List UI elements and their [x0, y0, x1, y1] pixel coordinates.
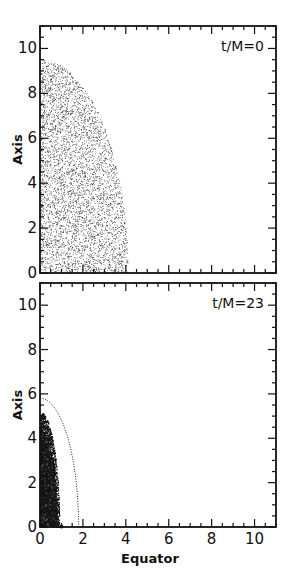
x-tick-label: 8 [207, 530, 217, 548]
plot-frame [40, 283, 276, 527]
plot-frame [40, 26, 276, 273]
particle-scatter [40, 60, 128, 274]
x-tick-label: 6 [164, 530, 174, 548]
x-tick-label: 10 [245, 530, 264, 548]
panel-time-label: t/M=23 [212, 295, 264, 311]
y-tick-label: 10 [18, 39, 37, 57]
y-tick-label: 2 [27, 474, 37, 492]
particle-scatter [40, 413, 60, 528]
y-axis-title: Axis [10, 134, 25, 165]
y-tick-label: 2 [27, 219, 37, 237]
y-tick-label: 10 [18, 296, 37, 314]
panel-bottom: 02468100246810EquatorAxist/M=23 [10, 283, 276, 566]
chart-canvas: 0246810Axist/M=002468100246810EquatorAxi… [0, 0, 291, 587]
dense-core [40, 429, 58, 527]
y-tick-label: 8 [27, 341, 37, 359]
y-tick-label: 8 [27, 84, 37, 102]
y-tick-label: 6 [27, 385, 37, 403]
x-tick-label: 0 [35, 530, 45, 548]
panel-time-label: t/M=0 [221, 38, 264, 54]
x-tick-label: 2 [78, 530, 88, 548]
panel-top: 0246810Axist/M=0 [10, 26, 276, 282]
x-axis-title: Equator [121, 551, 179, 566]
y-tick-label: 4 [27, 174, 37, 192]
y-tick-label: 6 [27, 129, 37, 147]
x-tick-label: 4 [121, 530, 131, 548]
y-tick-label: 0 [27, 264, 37, 282]
y-axis-title: Axis [10, 389, 25, 420]
y-tick-label: 4 [27, 429, 37, 447]
